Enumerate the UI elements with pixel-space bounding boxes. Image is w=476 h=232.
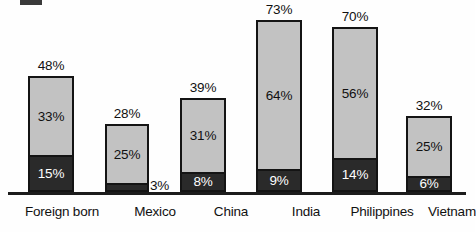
bar-segment-lower-label: 14% — [342, 168, 368, 182]
bar-segment-lower-label: 9% — [269, 174, 288, 188]
bar-segment-upper-label: 25% — [114, 148, 140, 162]
plot-area: 48% 33% 15% 28% 25% 3% — [0, 0, 475, 195]
bar-segment-upper-label: 25% — [416, 140, 442, 154]
bar-segment-lower-label: 8% — [193, 175, 212, 189]
category-label-foreign-born: Foreign born — [25, 205, 99, 219]
bar-segment-upper-label: 64% — [266, 89, 292, 103]
bar-segment-lower[interactable]: 15% — [30, 155, 72, 190]
bar-stack[interactable]: 25% 6% — [406, 116, 452, 192]
bar-segment-lower[interactable]: 3% — [107, 183, 147, 190]
bar-segment-upper-label: 33% — [38, 110, 64, 124]
bar-segment-lower-label: 6% — [419, 177, 438, 191]
bar-segment-upper[interactable]: 31% — [182, 100, 224, 172]
category-label-china: China — [214, 205, 248, 219]
bar-segment-upper[interactable]: 25% — [107, 126, 147, 183]
bar-stack[interactable]: 64% 9% — [256, 20, 302, 192]
bar-segment-lower[interactable]: 9% — [258, 169, 300, 190]
bar-segment-lower[interactable]: 6% — [408, 176, 450, 190]
bar-group-mexico[interactable]: 28% 25% 3% — [105, 0, 149, 195]
bar-group-china[interactable]: 39% 31% 8% — [180, 0, 226, 195]
bar-segment-upper[interactable]: 33% — [30, 78, 72, 155]
category-label-philippines: Philippines — [350, 205, 413, 219]
x-axis-line — [8, 192, 466, 195]
category-axis: Foreign born Mexico China India Philippi… — [0, 197, 475, 232]
bar-segment-upper[interactable]: 64% — [258, 22, 300, 169]
bar-group-foreign-born[interactable]: 48% 33% 15% — [28, 0, 74, 195]
bar-segment-lower[interactable]: 14% — [334, 158, 376, 190]
bar-total-label: 28% — [114, 107, 140, 121]
bar-group-vietnam[interactable]: 32% 25% 6% — [406, 0, 452, 195]
bar-segment-lower[interactable]: 8% — [182, 172, 224, 190]
bar-stack[interactable]: 56% 14% — [332, 27, 378, 192]
bar-total-label: 48% — [38, 59, 64, 73]
bar-segment-lower-label: 3% — [150, 179, 169, 193]
bar-segment-lower-label: 15% — [38, 167, 64, 181]
bar-stack[interactable]: 25% 3% — [105, 124, 149, 192]
bar-stack[interactable]: 33% 15% — [28, 76, 74, 192]
category-label-india: India — [292, 205, 320, 219]
bar-stack[interactable]: 31% 8% — [180, 98, 226, 192]
bar-segment-upper-label: 31% — [190, 129, 216, 143]
category-label-vietnam: Vietnam — [428, 205, 476, 219]
bar-group-philippines[interactable]: 70% 56% 14% — [332, 0, 378, 195]
bar-segment-upper-label: 56% — [342, 87, 368, 101]
bar-total-label: 70% — [342, 10, 368, 24]
category-label-mexico: Mexico — [134, 205, 176, 219]
bar-segment-upper[interactable]: 56% — [334, 29, 376, 158]
bar-total-label: 39% — [190, 81, 216, 95]
bar-total-label: 73% — [266, 3, 292, 17]
bar-total-label: 32% — [416, 99, 442, 113]
bar-segment-upper[interactable]: 25% — [408, 118, 450, 176]
bar-group-india[interactable]: 73% 64% 9% — [256, 0, 302, 195]
